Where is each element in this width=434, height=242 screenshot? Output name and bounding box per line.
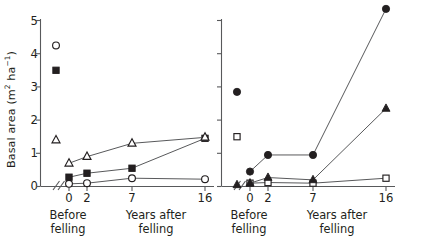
series-filled-circle	[233, 5, 389, 175]
datapoint-filled-triangle-year-7	[309, 175, 317, 182]
series-open-triangle	[52, 133, 209, 166]
datapoint-open-square-year-16	[383, 175, 389, 181]
series-filled-square	[53, 67, 208, 180]
datapoint-open-circle-year-0	[66, 180, 73, 187]
basal-area-figure: Basal area (m2 ha−1) 0 1 2 3 4 5 0 2 7 1…	[0, 0, 434, 242]
datapoint-filled-circle-year-0	[246, 168, 253, 175]
chart-panel-right: 0 2 7 16 Before felling Years after fell…	[217, 0, 434, 242]
chart-panel-left: Basal area (m2 ha−1) 0 1 2 3 4 5 0 2 7 1…	[0, 0, 217, 242]
datapoint-filled-square-year-7	[129, 165, 135, 171]
datapoint-filled-square-year-2	[84, 170, 90, 176]
datapoint-open-circle-before-felling	[53, 42, 60, 49]
y-axis-ticks-left	[36, 21, 41, 187]
datapoint-open-square-before-felling	[234, 134, 240, 140]
axis-break-marker-left	[53, 181, 65, 190]
x-axis-ticks-left	[69, 187, 205, 192]
datapoint-open-circle-year-2	[84, 180, 91, 187]
datapoint-filled-circle-before-felling	[233, 88, 240, 95]
datapoint-filled-triangle-year-16	[382, 104, 390, 111]
data-series-group-left	[52, 42, 209, 187]
datapoint-open-circle-year-16	[202, 176, 209, 183]
datapoint-filled-circle-year-7	[309, 151, 316, 158]
series-filled-triangle	[233, 104, 390, 188]
datapoint-open-triangle-year-7	[128, 139, 136, 146]
plot-area-right	[217, 0, 434, 242]
data-series-group-right	[233, 5, 390, 187]
datapoint-filled-triangle-year-2	[264, 173, 272, 180]
x-axis-ticks-right	[250, 187, 386, 192]
datapoint-open-circle-year-7	[129, 175, 136, 182]
y-axis-ticks-right	[217, 21, 222, 187]
datapoint-filled-circle-year-2	[264, 151, 271, 158]
plot-area-left	[0, 0, 217, 242]
datapoint-open-triangle-before-felling	[52, 135, 60, 142]
datapoint-filled-circle-year-16	[382, 5, 389, 12]
series-line-filled-circle	[250, 9, 386, 172]
datapoint-filled-square-year-0	[66, 174, 72, 180]
datapoint-filled-square-before-felling	[53, 67, 59, 73]
